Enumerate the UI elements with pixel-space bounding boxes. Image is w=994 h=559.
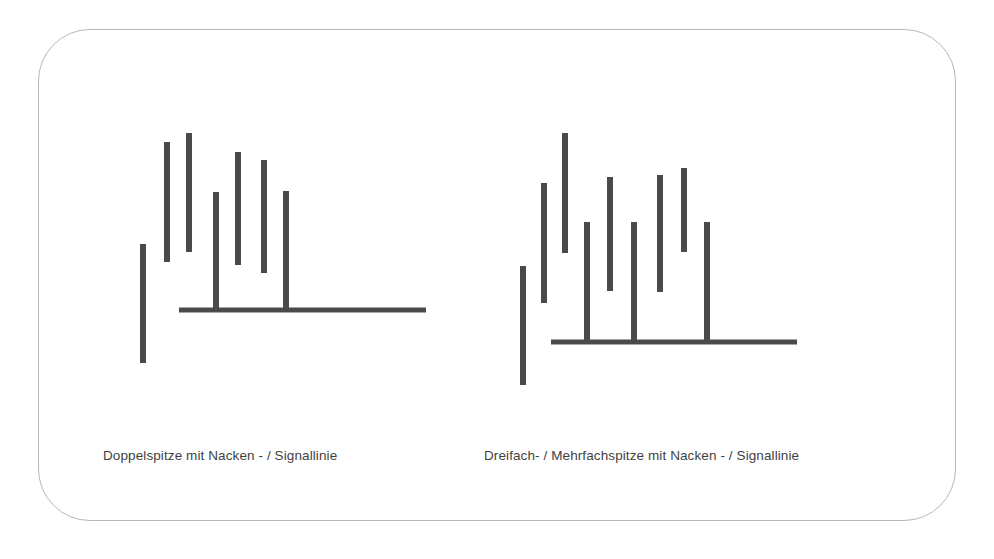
caption-double-top: Doppelspitze mit Nacken - / Signallinie: [103, 448, 337, 463]
diagram-page: Doppelspitze mit Nacken - / Signallinie …: [0, 0, 994, 559]
price-bar: [631, 222, 637, 343]
price-bar: [607, 177, 613, 291]
neckline-signal-line: [551, 340, 797, 345]
price-bar: [541, 183, 547, 303]
price-bar: [657, 175, 663, 292]
caption-triple-top: Dreifach- / Mehrfachspitze mit Nacken - …: [484, 448, 799, 463]
price-bar: [562, 133, 568, 253]
price-bar: [681, 168, 687, 252]
price-bar: [584, 222, 590, 343]
triple-top-chart: [0, 0, 994, 559]
price-bar: [520, 266, 526, 385]
price-bar: [704, 222, 710, 343]
